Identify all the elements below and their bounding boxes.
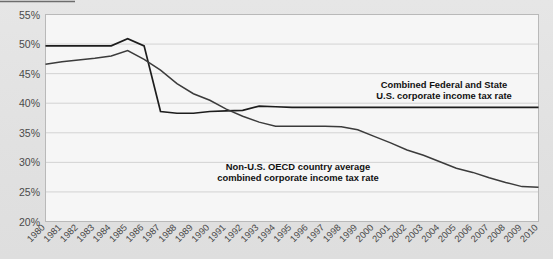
y-tick-35: 35% xyxy=(19,127,40,139)
y-tick-30: 30% xyxy=(19,156,40,168)
x-tick-1991: 1991 xyxy=(206,222,228,244)
x-tick-2003: 2003 xyxy=(403,222,425,244)
x-tick-1994: 1994 xyxy=(255,222,277,244)
x-axis-tick-labels: 1980198119821983198419851986198719881989… xyxy=(25,222,540,244)
oecd-annotation-line-1: Non-U.S. OECD country average xyxy=(226,161,370,172)
x-tick-1993: 1993 xyxy=(239,222,261,244)
x-tick-1984: 1984 xyxy=(91,222,113,244)
us-annotation-line-1: Combined Federal and State xyxy=(381,79,508,90)
y-axis-tick-labels: 55% 50% 45% 40% 35% 30% 25% 20% xyxy=(19,9,40,228)
y-tick-55: 55% xyxy=(19,9,40,21)
x-tick-1985: 1985 xyxy=(107,222,129,244)
x-tick-1986: 1986 xyxy=(124,222,146,244)
y-tick-50: 50% xyxy=(19,38,40,50)
chart-container: 55% 50% 45% 40% 35% 30% 25% 20% 19801981… xyxy=(0,0,553,259)
x-tick-1999: 1999 xyxy=(337,222,359,244)
x-tick-1990: 1990 xyxy=(190,222,212,244)
x-tick-2000: 2000 xyxy=(354,222,376,244)
x-tick-1982: 1982 xyxy=(58,222,80,244)
x-tick-2001: 2001 xyxy=(370,222,392,244)
us-rate-annotation: Combined Federal and State U.S. corporat… xyxy=(376,79,511,101)
y-tick-40: 40% xyxy=(19,97,40,109)
x-tick-2005: 2005 xyxy=(436,222,458,244)
x-tick-1987: 1987 xyxy=(140,222,162,244)
x-tick-2006: 2006 xyxy=(452,222,474,244)
us-annotation-line-2: U.S. corporate income tax rate xyxy=(376,90,511,101)
y-tick-25: 25% xyxy=(19,186,40,198)
x-tick-1997: 1997 xyxy=(305,222,327,244)
x-tick-2004: 2004 xyxy=(420,222,442,244)
x-tick-1981: 1981 xyxy=(42,222,64,244)
x-tick-2009: 2009 xyxy=(502,222,524,244)
x-tick-1988: 1988 xyxy=(157,222,179,244)
x-tick-2010: 2010 xyxy=(518,222,540,244)
x-tick-1983: 1983 xyxy=(75,222,97,244)
oecd-rate-annotation: Non-U.S. OECD country average combined c… xyxy=(217,161,379,183)
x-tick-2002: 2002 xyxy=(387,222,409,244)
x-tick-2007: 2007 xyxy=(469,222,491,244)
x-tick-1992: 1992 xyxy=(222,222,244,244)
tax-rate-line-chart: 55% 50% 45% 40% 35% 30% 25% 20% 19801981… xyxy=(0,0,553,259)
x-tick-1998: 1998 xyxy=(321,222,343,244)
x-tick-2008: 2008 xyxy=(485,222,507,244)
plot-area-background xyxy=(46,15,539,222)
x-tick-1995: 1995 xyxy=(272,222,294,244)
x-tick-1996: 1996 xyxy=(288,222,310,244)
oecd-annotation-line-2: combined corporate income tax rate xyxy=(217,172,379,183)
x-tick-1989: 1989 xyxy=(173,222,195,244)
y-tick-45: 45% xyxy=(19,68,40,80)
